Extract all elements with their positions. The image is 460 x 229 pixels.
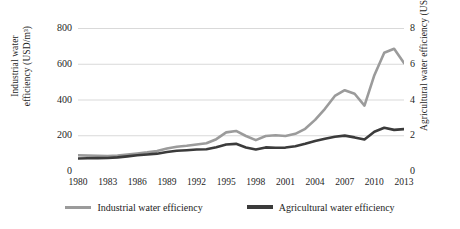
y-axis-title-left-line1: Industrial water [9, 1, 21, 131]
y-tick-label-left: 600 [38, 58, 72, 70]
legend-item[interactable]: Industrial water efficiency [65, 202, 202, 213]
chart-figure: Industrial water efficiency (USD/m³) Agr… [0, 0, 460, 229]
y-tick-label-right: 4 [410, 94, 430, 106]
y-tick-label-right: 8 [410, 22, 430, 34]
y-axis-title-left-line2: efficiency (USD/m³) [21, 1, 33, 131]
y-tick-label-right: 2 [410, 129, 430, 141]
series-line [78, 49, 404, 156]
y-tick-label-left: 800 [38, 22, 72, 34]
legend-item[interactable]: Agricultural water efficiency [247, 202, 395, 213]
chart-legend: Industrial water efficiencyAgricultural … [0, 198, 460, 216]
y-axis-title-left: Industrial water efficiency (USD/m³) [9, 1, 33, 131]
legend-label: Agricultural water efficiency [279, 202, 395, 213]
y-tick-label-left: 200 [38, 129, 72, 141]
x-tick-label: 2013 [387, 176, 421, 188]
y-tick-label-left: 400 [38, 94, 72, 106]
legend-swatch [65, 206, 91, 209]
y-tick-label-right: 6 [410, 58, 430, 70]
legend-label: Industrial water efficiency [97, 202, 202, 213]
plot-svg [78, 28, 404, 171]
plot-area [78, 28, 404, 171]
legend-swatch [247, 205, 273, 209]
